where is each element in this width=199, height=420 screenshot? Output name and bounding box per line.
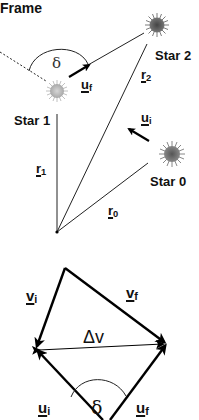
- ui-bottom-sub: i: [47, 405, 50, 417]
- r1-label: r1: [36, 162, 46, 175]
- vi-vector: [37, 268, 65, 346]
- uf-sub: f: [89, 83, 92, 93]
- r2-label: r2: [141, 68, 151, 81]
- uf-arrow: [69, 65, 89, 77]
- vf-sub: f: [134, 290, 138, 302]
- r1-sub: 1: [41, 167, 46, 177]
- star-2-label: Star 2: [155, 49, 191, 62]
- r0-line: [57, 163, 148, 232]
- ui-sub: i: [149, 116, 152, 126]
- outgoing-trajectory-line: [88, 33, 144, 65]
- star-0-label: Star 0: [150, 175, 186, 188]
- uf-bottom-sub: f: [145, 405, 149, 417]
- ui-bottom-base: u: [38, 399, 47, 416]
- uf-base: u: [81, 77, 89, 92]
- bottom-delta-label: δ: [91, 398, 102, 417]
- vf-label: vf: [126, 285, 138, 300]
- vi-sub: i: [34, 293, 37, 305]
- ui-label: ui: [141, 111, 152, 124]
- position-vector-lines: [57, 44, 148, 232]
- diagram-canvas: [0, 0, 199, 420]
- origin-dot: [55, 230, 58, 233]
- ui-base: u: [141, 110, 149, 125]
- star-0-icon: [159, 141, 185, 167]
- r2-line: [57, 44, 147, 232]
- uf-label: uf: [81, 78, 92, 91]
- vf-vector: [65, 268, 164, 342]
- uf-bottom-base: u: [136, 399, 145, 416]
- frame-title: Frame: [0, 1, 42, 15]
- r0-sub: 0: [113, 209, 118, 219]
- star-1-icon: [46, 80, 68, 102]
- ui-bottom-label: ui: [38, 400, 50, 415]
- star-2-icon: [145, 13, 169, 37]
- vi-label: vi: [26, 288, 37, 303]
- r2-sub: 2: [146, 73, 151, 83]
- top-delta-label: δ: [52, 56, 61, 71]
- uf-bottom-label: uf: [136, 400, 149, 415]
- r0-label: r0: [108, 204, 118, 217]
- star-1-label: Star 1: [14, 114, 50, 127]
- delta-v-label: Δv: [83, 328, 104, 346]
- ui-arrow: [129, 129, 149, 141]
